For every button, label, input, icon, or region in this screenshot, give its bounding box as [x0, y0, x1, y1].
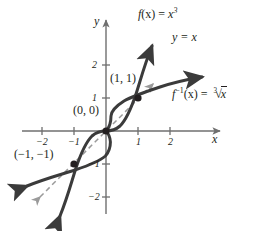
y-tick-label-neg1: −1 [88, 159, 100, 169]
plot-canvas [0, 0, 263, 231]
radical-index: 3 [214, 87, 218, 95]
point-marker-1-1 [134, 94, 141, 101]
function-label-f: f(x) = x3 [138, 8, 177, 20]
function-label-finv-superscript: −1 [175, 86, 183, 95]
x-tick-label-neg1: −1 [68, 137, 80, 147]
point-label-1-1: (1, 1) [110, 72, 136, 84]
function-inverse-graph-figure: y x −2 −1 1 2 2 1 −1 −2 (1, 1) (0, 0) (−… [0, 0, 263, 231]
y-tick-label-2: 2 [92, 60, 97, 70]
point-marker-neg1-neg1 [70, 160, 77, 167]
function-label-finv-arg: (x) = [184, 87, 211, 101]
x-tick-label-2: 2 [168, 137, 173, 147]
identity-line-label: y = x [172, 31, 197, 43]
y-tick-label-1: 1 [92, 93, 97, 103]
cube-root-function-curve-upper [106, 77, 202, 131]
x-tick-label-neg2: −2 [36, 137, 48, 147]
point-marker-0-0 [102, 127, 109, 134]
point-label-0-0: (0, 0) [73, 104, 99, 116]
y-axis-label: y [94, 15, 99, 27]
x-tick-label-1: 1 [136, 137, 141, 147]
function-label-f-exponent: 3 [173, 6, 177, 15]
function-label-f-arg: (x) = [141, 7, 168, 21]
cube-root-radical: 3√x [211, 88, 228, 100]
function-label-f-inverse: f−1(x) = 3√x [172, 88, 227, 100]
x-axis-label: x [212, 133, 217, 145]
y-tick-label-neg2: −2 [88, 192, 100, 202]
radicand: x [221, 86, 227, 101]
point-label-neg1-neg1: (−1, −1) [14, 148, 54, 160]
